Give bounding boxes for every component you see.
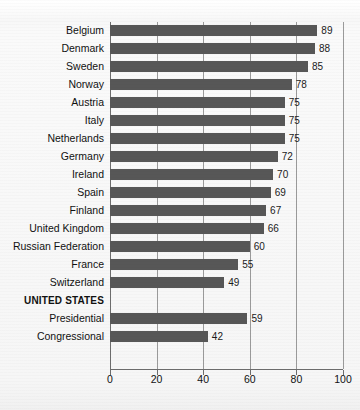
x-axis-baseline: [110, 369, 343, 370]
bar-value-label: 85: [312, 59, 323, 74]
bar-row: 55: [110, 256, 343, 274]
bar: [110, 97, 285, 108]
bar-row: 75: [110, 112, 343, 130]
bar-value-label: 66: [268, 221, 279, 236]
bar-row: 60: [110, 238, 343, 256]
bar-value-label: 70: [277, 167, 288, 182]
bar-row: 42: [110, 328, 343, 346]
bar-value-label: 75: [289, 131, 300, 146]
category-label: Austria: [0, 95, 104, 110]
bar-value-label: 88: [319, 41, 330, 56]
bar-value-label: 55: [242, 257, 253, 272]
category-label: Belgium: [0, 23, 104, 38]
bar-row: 72: [110, 148, 343, 166]
bar-row: 85: [110, 58, 343, 76]
bar-value-label: 49: [228, 275, 239, 290]
plot-area: 8988857875757572706967666055495942: [110, 22, 343, 369]
bar-value-label: 89: [321, 23, 332, 38]
bar-row: 70: [110, 166, 343, 184]
bar: [110, 133, 285, 144]
bar-row: 67: [110, 202, 343, 220]
bar-value-label: 42: [212, 329, 223, 344]
bar-row: 66: [110, 220, 343, 238]
bar: [110, 241, 250, 252]
category-label: Russian Federation: [0, 239, 104, 254]
category-label: Sweden: [0, 59, 104, 74]
bar-row: 75: [110, 130, 343, 148]
bar: [110, 313, 247, 324]
bar-value-label: 60: [254, 239, 265, 254]
bar: [110, 79, 292, 90]
x-axis-tick-labels: 020406080100: [110, 372, 343, 388]
category-label: Netherlands: [0, 131, 104, 146]
x-tick-mark-0: [110, 370, 111, 375]
bar-row: 49: [110, 274, 343, 292]
bar-value-label: 72: [282, 149, 293, 164]
bar: [110, 115, 285, 126]
x-tick-mark-80: [296, 370, 297, 375]
category-axis-labels: BelgiumDenmarkSwedenNorwayAustriaItalyNe…: [0, 22, 104, 369]
bar-value-label: 75: [289, 95, 300, 110]
category-label: United Kingdom: [0, 221, 104, 236]
bar: [110, 43, 315, 54]
category-label: Ireland: [0, 167, 104, 182]
category-label: Germany: [0, 149, 104, 164]
x-tick-mark-60: [250, 370, 251, 375]
bar: [110, 259, 238, 270]
bar-value-label: 75: [289, 113, 300, 128]
bar-row: 89: [110, 22, 343, 40]
gridline-100: [343, 22, 344, 369]
bar-row: 59: [110, 310, 343, 328]
bar: [110, 223, 264, 234]
bar: [110, 331, 208, 342]
bar-value-label: 69: [275, 185, 286, 200]
category-label: Denmark: [0, 41, 104, 56]
bar: [110, 61, 308, 72]
x-tick-mark-20: [157, 370, 158, 375]
bar: [110, 151, 278, 162]
bar-value-label: 78: [296, 77, 307, 92]
bar: [110, 205, 266, 216]
x-tick-mark-40: [203, 370, 204, 375]
category-label: Spain: [0, 185, 104, 200]
bar-row: 69: [110, 184, 343, 202]
bar: [110, 25, 317, 36]
chart-figure: BelgiumDenmarkSwedenNorwayAustriaItalyNe…: [0, 0, 360, 410]
category-label: Finland: [0, 203, 104, 218]
category-label: Congressional: [0, 329, 104, 344]
bar-row: 75: [110, 94, 343, 112]
bar-row: 88: [110, 40, 343, 58]
category-label: Presidential: [0, 311, 104, 326]
category-label: Switzerland: [0, 275, 104, 290]
bar-value-label: 59: [251, 311, 262, 326]
category-label: France: [0, 257, 104, 272]
bar: [110, 169, 273, 180]
category-label: Norway: [0, 77, 104, 92]
bar-value-label: 67: [270, 203, 281, 218]
bar-row: 78: [110, 76, 343, 94]
bar: [110, 277, 224, 288]
category-label: Italy: [0, 113, 104, 128]
bar: [110, 187, 271, 198]
x-tick-mark-100: [343, 370, 344, 375]
bar-row: [110, 292, 343, 310]
category-group-header: UNITED STATES: [0, 293, 104, 308]
